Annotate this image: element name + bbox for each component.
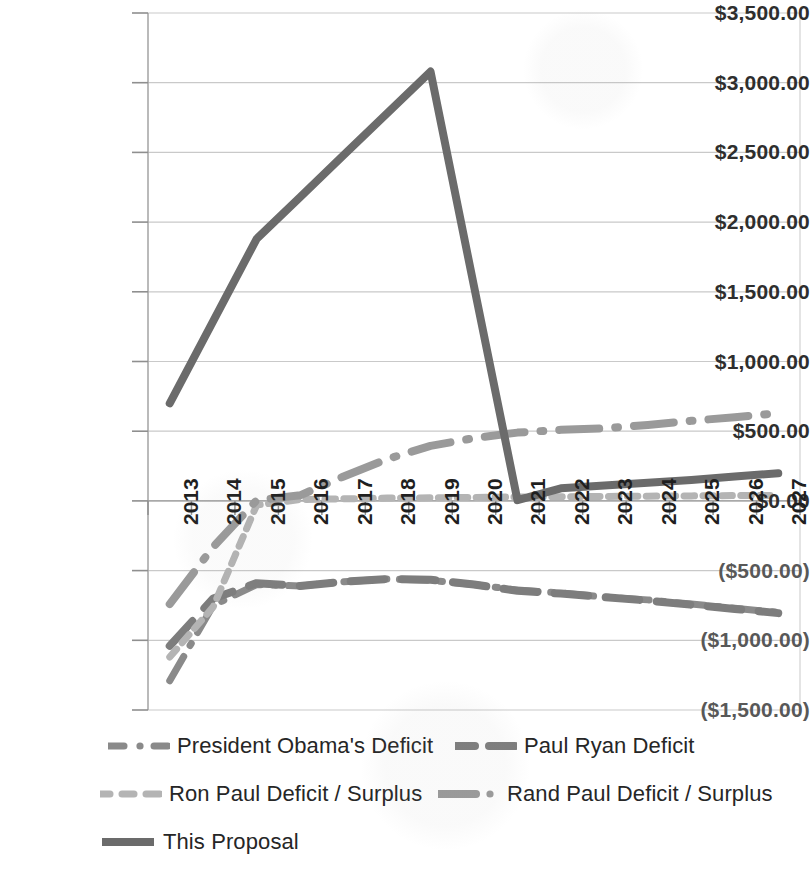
legend-item-label: President Obama's Deficit [177,733,433,759]
legend-item-label: This Proposal [163,829,299,855]
x-axis-tick-label: 2022 [570,478,594,525]
y-axis-tick-label: ($1,000.00) [684,628,810,652]
x-axis-tick-label: 2021 [526,478,550,525]
x-axis-tick-label: 2026 [744,478,768,525]
y-axis-ticks [132,13,148,710]
legend-item[interactable]: President Obama's Deficit [108,733,433,759]
x-axis-tick-label: 2019 [440,478,464,525]
y-axis-tick-label: ($500.00) [684,559,810,583]
y-axis-tick-label: $2,500.00 [684,140,810,164]
legend-swatch [438,786,500,802]
legend-item[interactable]: This Proposal [100,829,299,855]
x-axis-tick-label: 2013 [179,478,203,525]
y-axis-tick-label: $500.00 [684,419,810,443]
x-axis-tick-label: 2020 [483,478,507,525]
legend-swatch [455,738,517,754]
x-axis-tick-label: 2017 [353,478,377,525]
x-axis-tick-label: 2016 [309,478,333,525]
x-axis-tick-label: 2024 [657,478,681,525]
legend-swatch [100,786,162,802]
line-chart: $3,500.00$3,000.00$2,500.00$2,000.00$1,5… [0,0,810,870]
legend-swatch [100,834,156,850]
legend-item[interactable]: Paul Ryan Deficit [455,733,694,759]
y-axis-tick-label: $2,000.00 [684,210,810,234]
chart-legend: President Obama's DeficitPaul Ryan Defic… [0,726,810,870]
x-axis-tick-label: 2025 [700,478,724,525]
x-axis-tick-label: 2018 [396,478,420,525]
y-axis-tick-label: ($1,500.00) [684,698,810,722]
x-axis-tick-label: 2027 [787,478,810,525]
y-axis-tick-label: $1,500.00 [684,280,810,304]
legend-row: President Obama's DeficitPaul Ryan Defic… [0,726,810,766]
x-axis-tick-label: 2023 [613,478,637,525]
y-axis-tick-label: $1,000.00 [684,350,810,374]
y-axis-tick-label: $3,000.00 [684,71,810,95]
legend-item[interactable]: Ron Paul Deficit / Surplus [100,781,422,807]
legend-item-label: Rand Paul Deficit / Surplus [507,781,773,807]
x-axis-tick-label: 2015 [266,478,290,525]
y-axis-tick-label: $3,500.00 [684,1,810,25]
legend-row: This Proposal [0,822,810,862]
legend-swatch [108,738,170,754]
legend-item[interactable]: Rand Paul Deficit / Surplus [438,781,773,807]
legend-item-label: Ron Paul Deficit / Surplus [169,781,422,807]
legend-item-label: Paul Ryan Deficit [524,733,694,759]
x-axis-tick-label: 2014 [222,478,246,525]
legend-row: Ron Paul Deficit / SurplusRand Paul Defi… [0,774,810,814]
